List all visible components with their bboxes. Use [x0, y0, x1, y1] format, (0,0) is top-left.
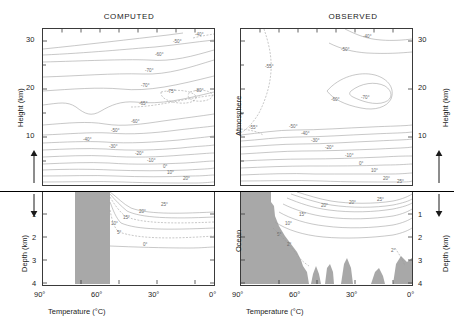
computed-ocean-contours: 25° 20° 15° 10° 5° 0°	[43, 192, 214, 284]
svg-text:10°: 10°	[285, 221, 292, 226]
observed-depth-tick-4: 4	[418, 279, 422, 288]
observed-depth-tick-1: 1	[418, 210, 422, 219]
computed-height-tick-30: 30	[26, 35, 34, 44]
svg-text:-50°: -50°	[111, 128, 120, 133]
svg-text:25°: 25°	[377, 197, 384, 202]
svg-text:-10°: -10°	[147, 158, 156, 163]
computed-depth-axis-label: Depth (km)	[20, 235, 29, 272]
svg-text:-60°: -60°	[131, 119, 140, 124]
computed-depth-tick-4: 4	[32, 279, 36, 288]
svg-text:-40°: -40°	[195, 32, 204, 37]
observed-ocean-contours: 25° 20° 20° 15° 10° 5° 2° 2°	[241, 192, 412, 284]
observed-x-tick-0: 0°	[407, 290, 414, 299]
svg-text:-70°: -70°	[145, 68, 154, 73]
computed-depth-arrow-icon	[29, 194, 39, 218]
svg-text:15°: 15°	[299, 212, 306, 217]
observed-region-label-ocean: Ocean	[234, 230, 243, 252]
svg-text:10°: 10°	[371, 168, 378, 173]
svg-text:-20°: -20°	[135, 151, 144, 156]
observed-ocean-plot: 25° 20° 20° 15° 10° 5° 2° 2°	[240, 192, 413, 286]
svg-text:-75°: -75°	[167, 89, 176, 94]
computed-x-tick-30: 30°	[148, 290, 159, 299]
panel-title-computed: COMPUTED	[44, 12, 214, 21]
observed-x-tick-90: 90°	[232, 290, 243, 299]
figure-root: COMPUTED OBSERVED	[0, 0, 454, 331]
svg-text:20°: 20°	[349, 200, 356, 205]
svg-text:-30°: -30°	[109, 144, 118, 149]
computed-height-tick-10: 10	[26, 131, 34, 140]
computed-depth-tick-2: 2	[32, 233, 36, 242]
svg-text:-40°: -40°	[301, 131, 310, 136]
land-shading	[241, 192, 309, 284]
computed-x-axis-label: Temperature (°C)	[48, 307, 106, 316]
right-ticks	[408, 41, 412, 137]
observed-height-tick-30: 30	[418, 35, 426, 44]
observed-depth-tick-2: 2	[418, 233, 422, 242]
svg-text:2°: 2°	[287, 242, 292, 247]
svg-text:20°: 20°	[139, 209, 146, 214]
land-shading	[75, 192, 110, 284]
computed-ocean-plot: 25° 20° 15° 10° 5° 0°	[42, 192, 215, 286]
observed-height-axis-label: Height (km)	[441, 88, 450, 127]
svg-text:-50°: -50°	[289, 124, 298, 129]
observed-depth-arrow-icon	[434, 194, 444, 218]
computed-height-axis-label: Height (km)	[16, 88, 25, 127]
observed-x-axis-label: Temperature (°C)	[246, 307, 304, 316]
svg-text:-40°: -40°	[363, 34, 372, 39]
svg-text:-65°: -65°	[139, 101, 148, 106]
observed-atmosphere-plot: -40° -50° -55° -60° -70° -50° -55° -40° …	[240, 28, 413, 186]
observed-depth-axis-label: Depth (km)	[441, 235, 450, 272]
right-ticks	[210, 214, 214, 283]
svg-text:-20°: -20°	[325, 145, 334, 150]
svg-text:-60°: -60°	[155, 52, 164, 57]
computed-x-tick-90: 90°	[34, 290, 45, 299]
svg-text:15°: 15°	[123, 215, 130, 220]
observed-height-tick-20: 20	[418, 83, 426, 92]
svg-text:-10°: -10°	[345, 153, 354, 158]
computed-x-tick-0: 0°	[209, 290, 216, 299]
svg-text:-60°: -60°	[331, 97, 340, 102]
svg-text:-40°: -40°	[83, 137, 92, 142]
svg-text:10°: 10°	[111, 221, 118, 226]
computed-atmosphere-plot: -40° -50° -60° -70° -70° -75° -80° -65° …	[42, 28, 215, 186]
computed-height-tick-20: 20	[26, 83, 34, 92]
observed-height-arrow-icon	[434, 150, 444, 184]
top-ticks	[260, 29, 393, 33]
observed-depth-tick-3: 3	[418, 256, 422, 265]
top-ticks	[62, 29, 195, 33]
svg-text:25°: 25°	[397, 179, 404, 184]
computed-atmosphere-contours: -40° -50° -60° -70° -70° -75° -80° -65° …	[43, 29, 214, 185]
computed-x-tick-60: 60°	[91, 290, 102, 299]
right-ticks	[210, 41, 214, 137]
svg-text:20°: 20°	[321, 203, 328, 208]
svg-text:-80°: -80°	[195, 88, 204, 93]
surface-line	[0, 191, 454, 192]
svg-text:-55°: -55°	[265, 64, 274, 69]
left-ticks	[43, 214, 47, 283]
svg-text:0°: 0°	[359, 161, 364, 166]
observed-x-tick-30: 30°	[346, 290, 357, 299]
observed-atmosphere-contours: -40° -50° -55° -60° -70° -50° -55° -40° …	[241, 29, 412, 185]
svg-text:20°: 20°	[183, 176, 190, 181]
computed-depth-tick-3: 3	[32, 256, 36, 265]
observed-height-tick-10: 10	[418, 131, 426, 140]
svg-text:-55°: -55°	[249, 125, 258, 130]
svg-text:-30°: -30°	[311, 138, 320, 143]
svg-text:-70°: -70°	[361, 95, 370, 100]
svg-text:0°: 0°	[163, 164, 168, 169]
svg-text:20°: 20°	[383, 176, 390, 181]
svg-text:-50°: -50°	[173, 39, 182, 44]
svg-text:-50°: -50°	[341, 47, 350, 52]
svg-text:5°: 5°	[117, 230, 122, 235]
svg-text:0°: 0°	[143, 242, 148, 247]
observed-x-tick-60: 60°	[289, 290, 300, 299]
computed-height-arrow-icon	[29, 150, 39, 184]
svg-text:-70°: -70°	[141, 83, 150, 88]
svg-text:10°: 10°	[167, 170, 174, 175]
svg-text:2°: 2°	[391, 248, 396, 253]
observed-region-label-atmosphere: Atmosphere	[234, 96, 243, 136]
panel-title-observed: OBSERVED	[268, 12, 438, 21]
svg-text:25°: 25°	[161, 202, 168, 207]
